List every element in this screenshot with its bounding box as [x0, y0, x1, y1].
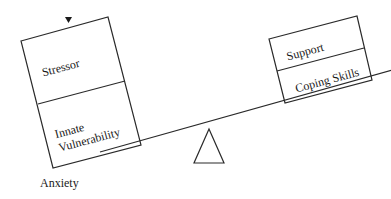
left-box-divider — [38, 81, 125, 104]
anxiety-label: Anxiety — [40, 176, 79, 190]
down-arrow-icon — [65, 17, 72, 23]
balance-diagram: Stressor Innate Vulnerability Support Co… — [0, 0, 391, 199]
coping-skills-label: Coping Skills — [294, 65, 361, 96]
balance-beam — [100, 70, 391, 152]
stressor-label: Stressor — [40, 56, 81, 80]
fulcrum-triangle — [194, 129, 224, 163]
